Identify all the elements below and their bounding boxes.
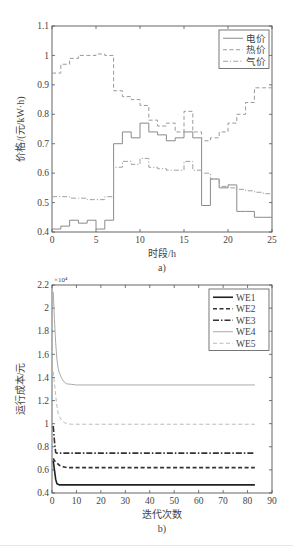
legend-label: 热价 bbox=[246, 44, 266, 55]
y-axis-label: 运行成本/元 bbox=[14, 363, 26, 416]
x-tick-label: 0 bbox=[50, 235, 55, 245]
x-tick-label: 0 bbox=[50, 496, 55, 506]
y-tick-label: 0.4 bbox=[37, 227, 49, 237]
legend-label: WE5 bbox=[236, 339, 256, 349]
x-tick-label: 70 bbox=[218, 496, 228, 506]
y-tick-label: 2.2 bbox=[37, 280, 49, 290]
y-tick-label: 0.8 bbox=[37, 442, 49, 452]
series-line-WE5 bbox=[53, 372, 255, 425]
x-tick-label: 10 bbox=[72, 496, 82, 506]
series-line-WE1 bbox=[53, 461, 255, 485]
x-tick-label: 20 bbox=[223, 235, 233, 245]
cost-convergence-chart: 01020304050607080900.40.60.811.21.41.61.… bbox=[0, 275, 293, 550]
y-tick-label: 1.2 bbox=[37, 396, 49, 406]
y-tick-label: 0.8 bbox=[37, 109, 49, 119]
legend-label: 电价 bbox=[246, 33, 266, 44]
series-line-电价 bbox=[52, 123, 272, 229]
x-tick-label: 30 bbox=[121, 496, 131, 506]
figure-caption: b) bbox=[158, 523, 166, 535]
y-tick-label: 1 bbox=[44, 51, 49, 61]
y-tick-label: 0.6 bbox=[37, 168, 49, 178]
y-tick-label: 0.6 bbox=[37, 465, 49, 475]
x-axis-label: 迭代次数 bbox=[142, 508, 182, 520]
y-tick-label: 1 bbox=[44, 419, 49, 429]
x-tick-label: 15 bbox=[179, 235, 189, 245]
legend: 电价热价气价 bbox=[219, 30, 269, 69]
y-tick-label: 0.9 bbox=[37, 80, 49, 90]
x-tick-label: 5 bbox=[94, 235, 99, 245]
y-tick-label: 1.1 bbox=[37, 21, 49, 31]
x-tick-label: 10 bbox=[135, 235, 145, 245]
x-tick-label: 40 bbox=[145, 496, 155, 506]
legend: WE1WE2WE3WE4WE5 bbox=[209, 289, 269, 351]
x-tick-label: 25 bbox=[267, 235, 277, 245]
y-tick-label: 0.4 bbox=[37, 488, 49, 498]
legend-label: 气价 bbox=[246, 56, 266, 67]
series-line-气价 bbox=[52, 158, 272, 199]
legend-label: WE3 bbox=[236, 316, 256, 326]
y-tick-label: 0.7 bbox=[37, 139, 49, 149]
series-line-WE3 bbox=[53, 426, 255, 453]
price-chart: 05101520250.40.50.60.70.80.911.1时段/ha)价格… bbox=[0, 0, 293, 275]
divider bbox=[0, 545, 293, 546]
y-tick-label: 1.4 bbox=[37, 373, 49, 383]
y-tick-label: 0.5 bbox=[37, 198, 49, 208]
y-tick-label: 1.8 bbox=[37, 326, 49, 336]
y-tick-label: 2 bbox=[44, 303, 49, 313]
figure-caption: a) bbox=[158, 262, 166, 274]
x-tick-label: 60 bbox=[194, 496, 204, 506]
y-tick-label: 1.6 bbox=[37, 350, 49, 360]
x-tick-label: 20 bbox=[96, 496, 106, 506]
legend-label: WE4 bbox=[236, 327, 256, 337]
y-axis-label: 价格/(元/kW·h) bbox=[14, 97, 27, 162]
x-axis-label: 时段/h bbox=[148, 247, 176, 259]
x-tick-label: 90 bbox=[267, 496, 277, 506]
series-line-WE2 bbox=[53, 458, 255, 467]
cost-convergence-figure: 01020304050607080900.40.60.811.21.41.61.… bbox=[0, 275, 293, 550]
x-tick-label: 80 bbox=[243, 496, 253, 506]
x-tick-label: 50 bbox=[169, 496, 179, 506]
legend-label: WE1 bbox=[236, 293, 256, 303]
y-multiplier-label: ×10⁴ bbox=[54, 276, 68, 284]
price-chart-figure: 05101520250.40.50.60.70.80.911.1时段/ha)价格… bbox=[0, 0, 293, 275]
legend-label: WE2 bbox=[236, 304, 256, 314]
